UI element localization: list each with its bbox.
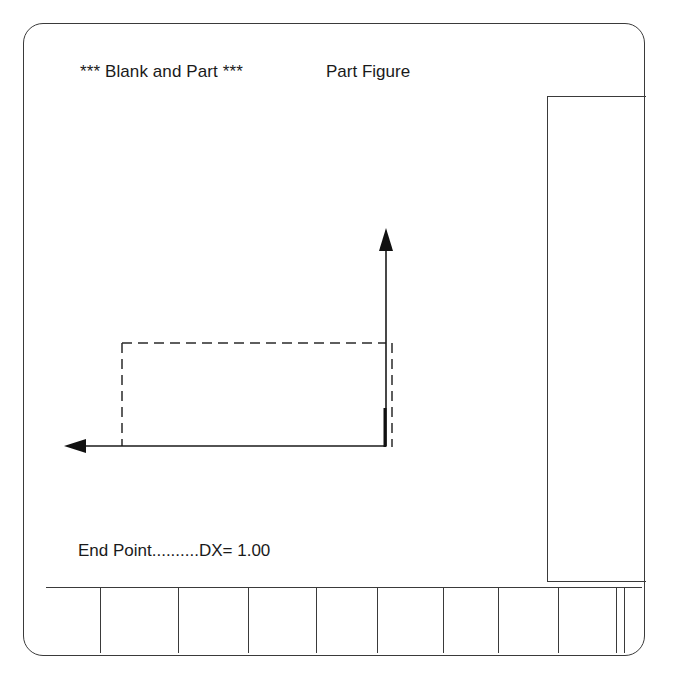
status-prompt: End Point..........DX= 1.00 [78,541,270,561]
softkey-divider [248,588,249,653]
softkey-divider [100,588,101,653]
softkey-5[interactable] [318,588,376,653]
softkey-10[interactable] [618,588,623,653]
softkey-divider [616,588,617,653]
softkey-4[interactable] [250,588,315,653]
softkey-divider [377,588,378,653]
softkey-6[interactable] [379,588,442,653]
softkey-divider [558,588,559,653]
softkey-divider [498,588,499,653]
softkey-3[interactable] [180,588,247,653]
softkey-9[interactable] [560,588,615,653]
softkey-7[interactable] [445,588,497,653]
softkey-1[interactable] [48,588,99,653]
softkey-bar [46,587,642,653]
softkey-8[interactable] [500,588,557,653]
side-info-panel [547,96,646,582]
softkey-divider [443,588,444,653]
mode-title: *** Blank and Part *** [80,62,243,82]
softkey-divider [178,588,179,653]
softkey-divider [316,588,317,653]
softkey-divider [624,588,625,653]
view-title: Part Figure [326,62,410,82]
softkey-2[interactable] [102,588,177,653]
